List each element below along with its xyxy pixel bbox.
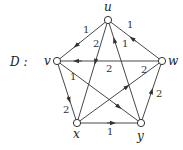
node-v bbox=[53, 57, 60, 64]
edge-y-u bbox=[108, 20, 141, 123]
weight-w-v: 2 bbox=[106, 63, 112, 74]
edge-u-x bbox=[77, 20, 108, 123]
node-y bbox=[137, 119, 144, 126]
label-v: v bbox=[44, 54, 51, 68]
weight-x-y: 1 bbox=[107, 126, 113, 137]
arrow-u-v-icon bbox=[76, 43, 80, 46]
label-x: x bbox=[73, 127, 80, 141]
label-u: u bbox=[104, 0, 112, 14]
arrow-x-w-icon bbox=[123, 87, 127, 90]
label-w: w bbox=[168, 54, 179, 68]
arrow-v-x-icon bbox=[68, 96, 69, 100]
arrow-y-u-icon bbox=[114, 40, 115, 44]
arrow-w-u-icon bbox=[132, 38, 136, 41]
node-u bbox=[104, 16, 111, 23]
node-x bbox=[73, 119, 80, 126]
weight-u-v: 1 bbox=[83, 24, 89, 35]
edge-x-w bbox=[77, 61, 162, 123]
arrow-v-y-icon bbox=[115, 104, 119, 107]
graph-title: D : bbox=[9, 55, 27, 69]
weight-u-x: 2 bbox=[93, 38, 99, 49]
weight-y-w: 2 bbox=[156, 88, 162, 99]
arrow-y-w-icon bbox=[151, 91, 152, 95]
node-w bbox=[158, 57, 165, 64]
weight-y-u: 1 bbox=[122, 38, 128, 49]
label-y: y bbox=[136, 129, 144, 143]
digraph-D: D : 1 1 2 2 1 bbox=[0, 0, 183, 150]
weight-v-x: 2 bbox=[63, 104, 69, 115]
weight-v-y: 1 bbox=[70, 71, 76, 82]
weight-w-u: 1 bbox=[127, 19, 133, 30]
weight-x-w: 2 bbox=[141, 64, 147, 75]
